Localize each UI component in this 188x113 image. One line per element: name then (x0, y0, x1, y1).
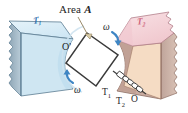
area-label: Area A (59, 4, 92, 15)
right-block-side-face (161, 33, 177, 99)
left-block-side-face (9, 21, 21, 96)
area-label-prefix: Area (59, 3, 84, 15)
origin-label: O (131, 95, 138, 105)
left-block-temperature-subscript: 1 (38, 20, 41, 27)
reservoir-cold-temperature-subscript: 2 (122, 101, 125, 108)
omega-top-label: ω (103, 23, 110, 33)
plate-face (66, 33, 118, 86)
left-block-temperature-label: T1 (33, 15, 42, 28)
right-block-temperature-subscript: 2 (142, 21, 145, 28)
reservoir-cold-temperature-label: T2 (116, 97, 125, 108)
right-thermal-reservoir-block (117, 12, 177, 99)
rotating-square-plate (66, 17, 118, 86)
origin-prime-label: O' (62, 42, 71, 52)
omega-bottom-label: ω (74, 86, 81, 96)
area-label-symbol: A (84, 3, 92, 15)
physics-figure-rotating-plate-between-reservoirs: Area A O' ω ω T1 T2 O T1 T2 (0, 0, 188, 113)
figure-canvas (0, 0, 188, 113)
reservoir-hot-temperature-subscript: 1 (108, 92, 111, 99)
reservoir-hot-temperature-label: T1 (102, 88, 111, 99)
right-block-temperature-label: T2 (137, 16, 145, 29)
